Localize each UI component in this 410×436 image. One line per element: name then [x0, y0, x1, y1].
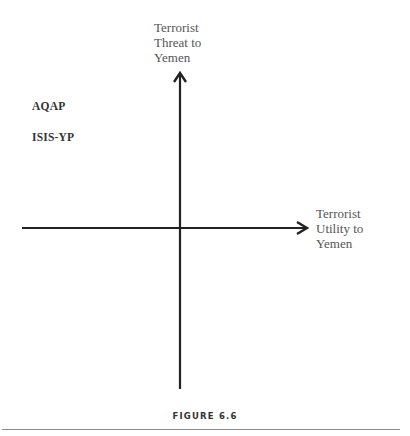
x-axis-label-line: Terrorist — [316, 206, 363, 221]
x-axis-label-line: Utility to — [316, 221, 363, 236]
x-axis-label-line: Yemen — [316, 236, 363, 251]
divider — [2, 429, 400, 430]
figure-caption: FIGURE 6.6 — [0, 411, 410, 421]
x-axis-label: Terrorist Utility to Yemen — [316, 206, 363, 251]
